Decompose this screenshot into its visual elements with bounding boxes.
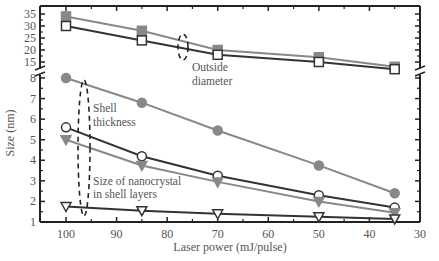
data-point-marker: [137, 152, 146, 161]
data-point-marker: [213, 50, 222, 59]
annotation-nanocrystal-line1: Size of nanocrystal: [93, 175, 181, 188]
data-point-marker: [62, 12, 71, 21]
x-axis-label: Laser power (mJ/pulse): [173, 240, 286, 254]
data-point-marker: [137, 36, 146, 45]
x-tick-label: 100: [57, 227, 75, 241]
y-tick-label: 1: [30, 215, 36, 229]
series-line: [66, 26, 395, 69]
data-point-marker: [390, 189, 399, 198]
y-tick-label: 5: [30, 133, 36, 147]
x-tick-label: 70: [212, 227, 224, 241]
y-tick-label: 3: [30, 174, 36, 188]
data-point-marker: [62, 22, 71, 31]
data-point-marker: [137, 98, 146, 107]
annotation-shell-thickness-line2: thickness: [93, 116, 136, 128]
series-line: [66, 16, 395, 66]
chart: 10090807060504030353025201587654321 Lase…: [0, 0, 439, 261]
x-tick-label: 50: [313, 227, 325, 241]
axes: 10090807060504030353025201587654321: [24, 6, 426, 241]
annotation-outside-diameter-line2: diameter: [192, 75, 232, 87]
annotation-shell-thickness-line1: Shell: [93, 102, 117, 114]
y-tick-label: 4: [30, 153, 36, 167]
annotation-nanocrystal-line2: in shell layers: [93, 188, 157, 201]
x-tick-label: 30: [414, 227, 426, 241]
data-point-marker: [213, 126, 222, 135]
data-point-marker: [314, 58, 323, 67]
x-tick-label: 90: [111, 227, 123, 241]
y-tick-label: 2: [30, 194, 36, 208]
x-tick-label: 40: [363, 227, 375, 241]
y-axis-label: Size (nm): [3, 110, 17, 157]
data-point-marker: [314, 161, 323, 170]
x-tick-label: 80: [161, 227, 173, 241]
y-tick-label: 8: [30, 71, 36, 85]
series-line: [66, 207, 395, 219]
data-point-marker: [62, 74, 71, 83]
y-tick-label: 15: [24, 55, 36, 69]
y-tick-label: 7: [30, 92, 36, 106]
y-tick-label: 6: [30, 112, 36, 126]
data-point-marker: [390, 65, 399, 74]
x-tick-label: 60: [262, 227, 274, 241]
data-point-marker: [62, 123, 71, 132]
annotation-outside-diameter-line1: Outside: [192, 61, 228, 73]
data-point-marker: [137, 26, 146, 35]
